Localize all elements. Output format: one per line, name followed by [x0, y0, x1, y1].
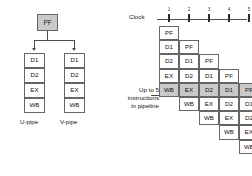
u-pipe-stage-wb: WB	[24, 98, 45, 113]
pipeline-cell-c1-wb: WB	[159, 83, 179, 97]
annotation-line-1: Up to 5	[101, 86, 159, 94]
pipeline-cell-c4-d2: D2	[219, 97, 239, 111]
clock-tick-label-1: 1	[168, 7, 171, 12]
pipeline-cell-c3-wb: WB	[199, 111, 219, 125]
clock-tick-4	[228, 14, 229, 22]
pipeline-cell-c2-wb: WB	[179, 97, 199, 111]
clock-tick-label-4: 4	[228, 7, 231, 12]
pipeline-cell-c1-d1: D1	[159, 40, 179, 54]
clock-tick-1	[168, 14, 169, 22]
v-pipe-arrow-icon	[72, 48, 76, 51]
pipeline-cell-c5-ex: EX	[239, 125, 252, 139]
pipeline-cell-c5-d2: D2	[239, 111, 252, 125]
pipeline-cell-c4-d1: D1	[219, 83, 239, 97]
clock-tick-label-5: 5	[248, 7, 251, 12]
clock-tick-2	[188, 14, 189, 22]
u-pipe-stage-d2: D2	[24, 68, 45, 83]
v-pipe-caption: V-pipe	[60, 118, 78, 125]
pipeline-annotation: Up to 5 instructions in pipeline	[101, 86, 159, 111]
pipeline-cell-c1-d2: D2	[159, 54, 179, 68]
v-pipe-stage-ex: EX	[64, 83, 85, 98]
clock-tick-5	[248, 14, 249, 22]
prefetch-bus-line	[34, 40, 74, 41]
annotation-line-3: in pipeline	[101, 102, 159, 110]
v-pipe-stage-d1: D1	[64, 53, 85, 68]
clock-axis-label: Clock	[129, 13, 144, 20]
pipeline-cell-c5-pf: PF	[239, 83, 252, 97]
u-pipe-stage-d1: D1	[24, 53, 45, 68]
prefetch-stem-line	[47, 31, 48, 40]
pipeline-cell-c3-d1: D1	[199, 69, 219, 83]
clock-tick-label-2: 2	[188, 7, 191, 12]
pipeline-cell-c2-d2: D2	[179, 69, 199, 83]
u-pipe-caption: U-pipe	[20, 118, 38, 125]
pipeline-cell-c2-d1: D1	[179, 54, 199, 68]
u-pipe-stage-ex: EX	[24, 83, 45, 98]
clock-tick-3	[208, 14, 209, 22]
clock-axis-line	[157, 19, 247, 20]
pipeline-cell-c4-wb: WB	[219, 125, 239, 139]
figure-canvas: PF D1 D2 EX WB U-pipe D1 D2 EX WB V-pipe…	[0, 0, 252, 176]
pipeline-cell-c3-ex: EX	[199, 97, 219, 111]
pipeline-cell-c5-d1: D1	[239, 97, 252, 111]
clock-tick-label-3: 3	[208, 7, 211, 12]
pipeline-cell-c5-wb: WB	[239, 140, 252, 154]
v-pipe-stage-d2: D2	[64, 68, 85, 83]
pipeline-cell-c3-pf: PF	[199, 54, 219, 68]
prefetch-box: PF	[37, 14, 58, 31]
pipeline-cell-c3-d2: D2	[199, 83, 219, 97]
pipeline-cell-c2-ex: EX	[179, 83, 199, 97]
v-pipe-stage-wb: WB	[64, 98, 85, 113]
pipeline-cell-c1-ex: EX	[159, 69, 179, 83]
pipeline-cell-c1-pf: PF	[159, 26, 179, 40]
u-pipe-arrow-icon	[32, 48, 36, 51]
pipeline-cell-c4-pf: PF	[219, 69, 239, 83]
pipeline-cell-c2-pf: PF	[179, 40, 199, 54]
pipeline-cell-c4-ex: EX	[219, 111, 239, 125]
